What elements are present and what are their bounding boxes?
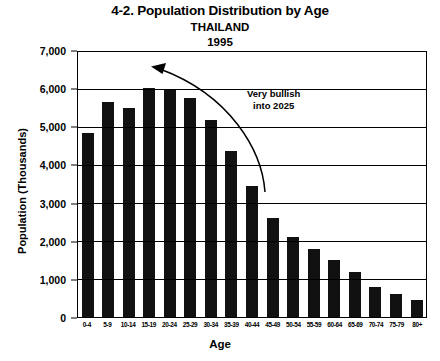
x-axis-tick-label: 30-34 (202, 321, 220, 335)
x-axis-tick-label: 45-49 (264, 321, 282, 335)
bar (267, 218, 279, 317)
gridline (78, 203, 426, 204)
annotation-text: Very bullish into 2025 (247, 88, 300, 111)
x-axis-tick-label: 10-14 (119, 321, 137, 335)
y-axis-tick-label: 1,000 (40, 274, 66, 286)
bar (82, 133, 94, 317)
bar (369, 287, 381, 317)
bar (246, 186, 258, 317)
y-axis-tick-label: 2,000 (40, 236, 66, 248)
x-axis-tick-label: 0-4 (78, 321, 96, 335)
gridline (78, 241, 426, 242)
bar (411, 300, 423, 317)
y-axis-tick-label: 5,000 (40, 121, 66, 133)
x-axis-tick-label: 50-54 (285, 321, 303, 335)
y-axis-tick-label: 0 (60, 312, 66, 324)
bar (328, 260, 340, 317)
x-axis-tick-label: 20-24 (161, 321, 179, 335)
x-axis-tick-label: 25-29 (181, 321, 199, 335)
x-axis-tick-label: 35-39 (223, 321, 241, 335)
x-axis-tick-label: 70-74 (367, 321, 385, 335)
x-axis-tick-label: 15-19 (140, 321, 158, 335)
x-axis-title: Age (0, 338, 440, 350)
gridline (78, 165, 426, 166)
x-axis-tick-label: 60-64 (326, 321, 344, 335)
x-axis-tick-label: 80+ (409, 321, 427, 335)
y-axis-tick-label: 3,000 (40, 198, 66, 210)
y-axis-tick-label: 6,000 (40, 83, 66, 95)
bar (184, 98, 196, 317)
x-axis-tick-label: 65-69 (347, 321, 365, 335)
y-axis-title: Population (Thousands) (16, 101, 28, 281)
x-axis-tick-label: 40-44 (243, 321, 261, 335)
bar (205, 120, 217, 317)
x-axis-tick-label: 5-9 (99, 321, 117, 335)
bar (123, 108, 135, 317)
bar (225, 151, 237, 317)
x-axis-tick-labels: 0-45-910-1415-1920-2425-2930-3435-3940-4… (77, 321, 427, 335)
bar (308, 249, 320, 317)
y-axis-tick-label: 4,000 (40, 159, 66, 171)
y-axis-tick-label: 7,000 (40, 45, 66, 57)
bar (287, 237, 299, 317)
x-axis-tick-label: 75-79 (388, 321, 406, 335)
x-axis-tick-label: 55-59 (305, 321, 323, 335)
bar (102, 102, 114, 317)
gridline (78, 279, 426, 280)
gridline (78, 127, 426, 128)
bar (390, 294, 402, 317)
y-axis: Population (Thousands) 7,0006,0005,0004,… (0, 0, 77, 361)
